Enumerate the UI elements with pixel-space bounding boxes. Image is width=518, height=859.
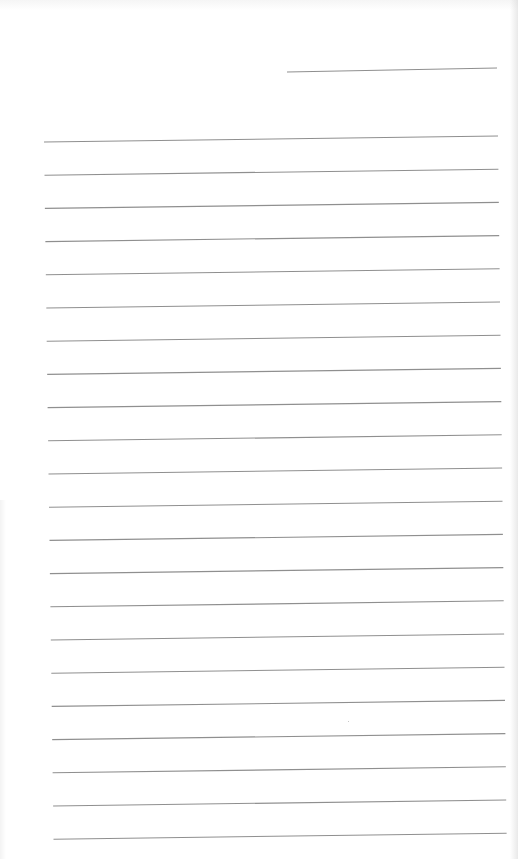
rule-line bbox=[52, 734, 505, 740]
rule-line bbox=[54, 833, 507, 839]
rule-line bbox=[50, 534, 503, 540]
rule-line bbox=[46, 269, 500, 275]
rule-line bbox=[46, 302, 500, 308]
ruled-lines bbox=[0, 0, 518, 859]
rule-line bbox=[53, 767, 506, 773]
rule-line bbox=[45, 169, 499, 175]
rule-line bbox=[47, 368, 501, 374]
right-edge-shadow bbox=[510, 0, 518, 859]
left-edge-shadow bbox=[0, 500, 6, 859]
header-rule-line bbox=[287, 68, 497, 72]
rule-line bbox=[48, 435, 502, 441]
rule-line bbox=[51, 634, 504, 640]
rule-line bbox=[44, 136, 498, 142]
rule-line bbox=[50, 568, 503, 574]
rule-line bbox=[47, 335, 501, 341]
rule-line bbox=[48, 402, 502, 408]
rule-line bbox=[45, 202, 499, 208]
rule-line bbox=[45, 236, 499, 242]
rule-line bbox=[52, 700, 505, 706]
paper-speck bbox=[348, 721, 349, 722]
rule-line bbox=[49, 468, 503, 474]
rule-line bbox=[53, 800, 506, 806]
lined-paper-page bbox=[0, 0, 518, 859]
rule-line bbox=[50, 601, 503, 607]
rule-line bbox=[51, 667, 504, 673]
rule-line bbox=[49, 501, 503, 507]
